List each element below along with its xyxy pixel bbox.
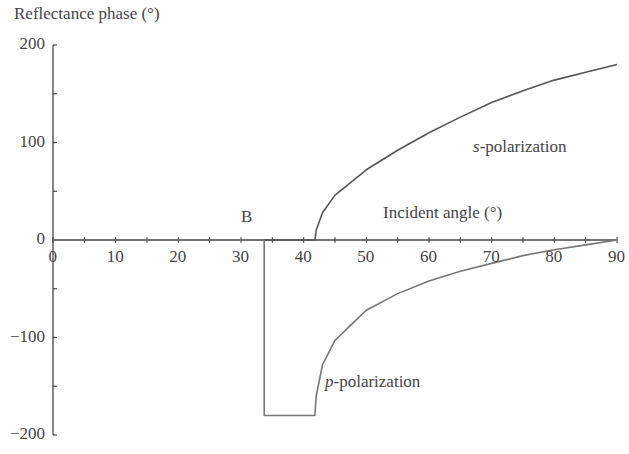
brewster-label: B [241, 207, 252, 227]
x-tick-label: 0 [49, 247, 58, 267]
x-tick-label: 20 [169, 247, 186, 267]
s-label-italic: s [473, 137, 480, 156]
s-label-rest: -polarization [480, 137, 567, 156]
y-tick-label: 200 [20, 34, 46, 54]
y-tick-label: 100 [20, 132, 46, 152]
x-tick-label: 80 [545, 247, 562, 267]
y-tick-label: −100 [10, 327, 45, 347]
x-tick-label: 10 [107, 247, 124, 267]
s-polarization-label: s-polarization [473, 137, 566, 157]
p-polarization-label: p-polarization [325, 372, 420, 392]
x-tick-label: 70 [483, 247, 500, 267]
p-label-rest: -polarization [334, 372, 421, 391]
y-axis-label: Reflectance phase (°) [14, 4, 160, 24]
y-tick-label: 0 [37, 229, 46, 249]
p-label-italic: p [325, 372, 334, 391]
x-tick-label: 90 [608, 247, 625, 267]
x-tick-label: 60 [420, 247, 437, 267]
x-tick-label: 30 [232, 247, 249, 267]
x-tick-label: 40 [295, 247, 312, 267]
plot-area [0, 0, 629, 454]
x-axis-label: Incident angle (°) [383, 203, 502, 223]
x-tick-label: 50 [357, 247, 374, 267]
y-tick-label: −200 [10, 424, 45, 444]
